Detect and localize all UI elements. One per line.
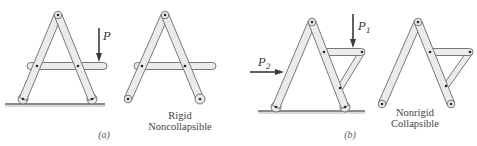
arrow-head-icon xyxy=(96,53,102,62)
pin xyxy=(77,65,80,68)
force-p1-label: P xyxy=(357,20,366,33)
arrow-head-icon xyxy=(275,69,284,75)
pin xyxy=(91,98,94,101)
pin xyxy=(381,103,384,106)
pin xyxy=(361,51,364,54)
brace-member xyxy=(338,51,365,90)
arrow-head-icon xyxy=(350,39,356,48)
pin xyxy=(141,65,144,68)
right-leg-member xyxy=(415,21,455,106)
caption-collapsible: Collapsible xyxy=(391,118,439,129)
pin xyxy=(450,103,453,106)
brace-member xyxy=(444,51,473,88)
pin xyxy=(323,51,326,54)
force-p-label: P xyxy=(102,30,111,43)
pin xyxy=(429,51,432,54)
pin xyxy=(22,98,25,101)
pin xyxy=(184,65,187,68)
panel-label-a: (a) xyxy=(98,129,110,141)
panel-a-loaded-frame: P xyxy=(5,11,111,107)
pin xyxy=(275,106,278,109)
pin xyxy=(417,21,420,24)
panel-b-free-frame: Nonrigid Collapsible xyxy=(378,18,473,129)
caption-rigid: Rigid xyxy=(168,110,192,121)
pin xyxy=(36,65,39,68)
pin xyxy=(469,51,472,54)
pin xyxy=(344,106,347,109)
panel-a-free-frame: Rigid Noncollapsible xyxy=(124,11,216,132)
force-p1-subscript: 1 xyxy=(366,26,371,35)
pin xyxy=(199,98,202,101)
force-p2-label: P xyxy=(257,56,266,69)
pin xyxy=(127,98,130,101)
caption-noncollapsible: Noncollapsible xyxy=(148,121,212,132)
pin xyxy=(57,14,60,17)
pin xyxy=(445,85,448,88)
left-leg-member xyxy=(379,21,422,106)
right-leg-member xyxy=(309,21,349,109)
left-leg-member xyxy=(20,14,62,101)
force-p2-subscript: 2 xyxy=(265,62,271,71)
caption-nonrigid: Nonrigid xyxy=(396,107,435,118)
frames-diagram: P Rigid Noncollapsible (a) xyxy=(0,0,477,146)
pin xyxy=(164,14,167,17)
right-leg-member xyxy=(55,14,96,101)
panel-b-loaded-frame: P 1 P 2 xyxy=(250,14,371,114)
right-leg-member xyxy=(162,14,204,101)
left-leg-member xyxy=(273,21,316,109)
left-leg-member xyxy=(125,14,169,101)
pin xyxy=(311,21,314,24)
panel-label-b: (b) xyxy=(344,129,356,141)
pin xyxy=(339,87,342,90)
